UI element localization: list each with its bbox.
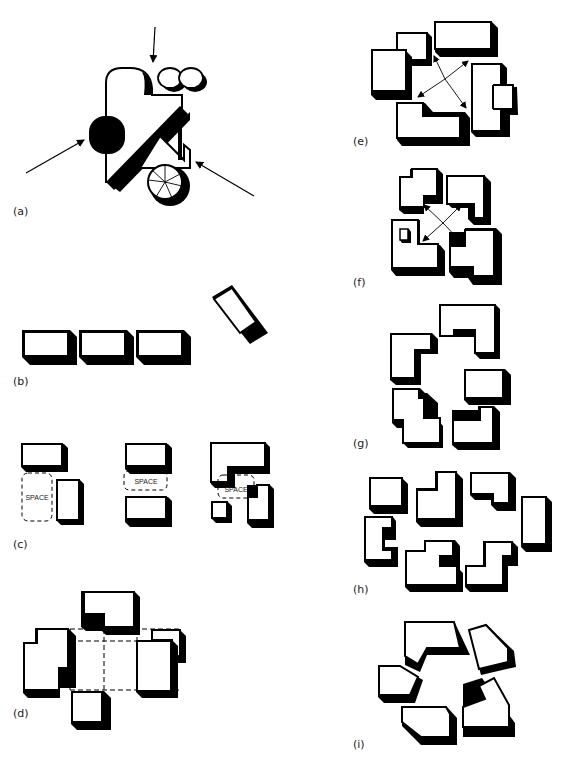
panel-label-a: (a)	[13, 205, 28, 218]
panel-label-d: (d)	[13, 707, 29, 720]
panel-label-i: (i)	[353, 738, 365, 751]
arrow-left-icon	[26, 140, 84, 173]
panel-a-drawing	[26, 27, 254, 206]
arrow-top-icon	[153, 27, 155, 62]
panel-e-drawing	[371, 22, 518, 146]
panel-label-g: (g)	[353, 437, 369, 450]
panel-label-c: (c)	[13, 538, 28, 551]
space-label-1: SPACE	[25, 494, 49, 501]
panel-d-drawing	[23, 592, 186, 730]
space-label-3: SPACE	[224, 486, 248, 493]
panel-b-drawing	[22, 285, 268, 365]
panel-label-h: (h)	[353, 583, 369, 596]
diagram-canvas: SPACE SPACE SPACE	[0, 0, 565, 764]
space-label-2: SPACE	[134, 478, 158, 485]
panel-g-drawing	[390, 304, 511, 450]
panel-i-drawing	[378, 622, 516, 745]
panel-f-drawing	[391, 169, 502, 285]
panel-h-drawing	[364, 471, 552, 592]
arrow-right-icon	[196, 162, 254, 196]
panel-label-b: (b)	[13, 375, 29, 388]
panel-label-f: (f)	[353, 276, 365, 289]
panel-label-e: (e)	[353, 135, 368, 148]
panel-c-drawing: SPACE SPACE SPACE	[21, 443, 274, 528]
